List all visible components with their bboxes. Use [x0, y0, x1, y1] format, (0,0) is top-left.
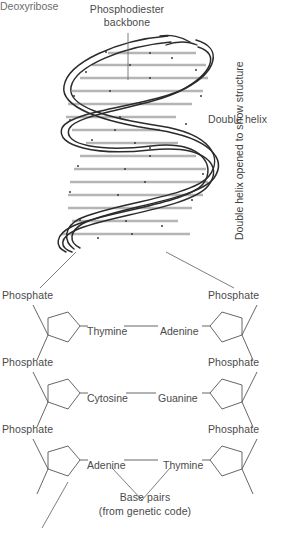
caption-base-pairs: Base pairs (from genetic code) — [70, 490, 220, 518]
label-phosphate-right-2: Phosphate — [208, 356, 259, 368]
label-base-left-2: Cytosine — [87, 392, 128, 404]
dna-structure-diagram: Phosphodiester backbone Double helix Dou… — [0, 0, 290, 540]
leader-line-to-left-phosphate — [40, 252, 76, 288]
label-base-left-3: Adenine — [87, 459, 126, 471]
sugar-ring-right-1 — [210, 312, 242, 342]
double-helix-graphic — [58, 35, 218, 252]
bond-left-2-up — [33, 372, 48, 402]
label-phosphate-left-3: Phosphate — [2, 423, 53, 435]
bond-left-3-down — [37, 469, 48, 494]
label-base-right-2: Guanine — [158, 392, 198, 404]
label-phosphodiester-line2: backbone — [72, 16, 182, 29]
label-phosphodiester-line1: Phosphodiester — [72, 3, 182, 16]
label-phosphate-right-3: Phosphate — [208, 423, 259, 435]
leader-line-deoxyribose — [42, 482, 68, 528]
diagram-canvas — [0, 0, 290, 540]
bond-left-1-up — [33, 305, 48, 335]
caption-base-pairs-line2: (from genetic code) — [70, 504, 220, 518]
label-phosphodiester-backbone: Phosphodiester backbone — [72, 3, 182, 29]
sugar-ring-left-1 — [48, 312, 80, 342]
bond-right-3-up — [242, 439, 257, 469]
caption-base-pairs-line1: Base pairs — [70, 490, 220, 504]
leader-line-to-right-phosphate — [166, 252, 234, 288]
bond-left-3-up — [33, 439, 48, 469]
sugar-ring-left-3 — [48, 446, 80, 476]
sugar-ring-right-3 — [210, 446, 242, 476]
label-phosphate-left-2: Phosphate — [2, 356, 53, 368]
label-base-right-1: Adenine — [160, 325, 199, 337]
label-base-right-3: Thymine — [163, 459, 203, 471]
label-phosphate-right-1: Phosphate — [208, 289, 259, 301]
label-base-left-1: Thymine — [87, 325, 127, 337]
bond-right-1-up — [242, 305, 257, 335]
bond-right-2-up — [242, 372, 257, 402]
label-phosphate-left-1: Phosphate — [2, 289, 53, 301]
sugar-ring-right-2 — [210, 379, 242, 409]
nucleotide-ladder — [33, 305, 257, 494]
label-double-helix-opened-to-show-structure: Double helix opened to show structure — [233, 40, 245, 240]
bond-right-3-down — [242, 469, 253, 494]
sugar-ring-left-2 — [48, 379, 80, 409]
